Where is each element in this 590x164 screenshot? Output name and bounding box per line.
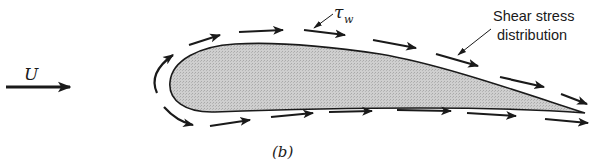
- tau-subscript: w: [344, 13, 354, 26]
- annotation-line-2: distribution: [497, 27, 567, 43]
- tau-leader-line: [314, 14, 333, 28]
- shear-stress-diagram: U τ w Shear stress distribution (b): [0, 0, 590, 164]
- wall-shear-label: τ w: [314, 2, 354, 28]
- annotation-leader-line: [458, 29, 491, 55]
- tau-symbol: τ: [334, 2, 344, 22]
- figure-label: (b): [272, 143, 293, 161]
- shear-stress-annotation: Shear stress distribution: [458, 8, 574, 55]
- free-stream-symbol: U: [24, 64, 39, 84]
- airfoil-body: [170, 43, 585, 113]
- annotation-line-1: Shear stress: [493, 8, 574, 24]
